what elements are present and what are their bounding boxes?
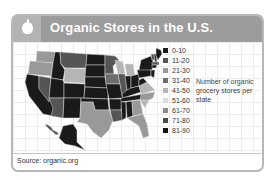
legend-swatch xyxy=(163,68,168,73)
card-header: Organic Stores in the U.S. xyxy=(13,16,262,42)
legend-label: 21-30 xyxy=(172,67,190,74)
state-me xyxy=(156,48,162,60)
state-ct xyxy=(152,65,157,68)
us-map xyxy=(13,42,163,152)
card-footer: Source: organic.org xyxy=(13,153,262,171)
state-hi xyxy=(45,124,59,135)
legend-swatch xyxy=(163,48,168,53)
state-mi xyxy=(125,64,135,76)
state-ne xyxy=(85,77,107,88)
state-oh xyxy=(131,74,139,88)
legend-swatch xyxy=(163,98,168,103)
icon-box xyxy=(13,16,41,42)
legend-item: 11-20 xyxy=(163,55,190,65)
state-wy xyxy=(64,68,86,83)
legend-item: 71-80 xyxy=(163,115,190,125)
legend-label: 0-10 xyxy=(172,47,186,54)
state-ma xyxy=(152,62,159,65)
legend-swatch xyxy=(163,108,168,113)
chart-title: Organic Stores in the U.S. xyxy=(50,20,213,35)
legend-swatch xyxy=(163,118,168,123)
legend: 0-1011-2021-3031-4041-5051-6061-7071-808… xyxy=(163,45,190,135)
state-co xyxy=(64,83,85,98)
legend-swatch xyxy=(163,128,168,133)
state-wa xyxy=(36,51,55,63)
state-ms xyxy=(121,102,126,120)
state-ut xyxy=(49,78,64,98)
state-ak xyxy=(59,124,85,150)
legend-item: 81-90 xyxy=(163,125,190,135)
legend-item: 61-70 xyxy=(163,105,190,115)
state-nj xyxy=(151,70,155,78)
legend-item: 31-40 xyxy=(163,75,190,85)
legend-swatch xyxy=(163,88,168,93)
source-text: Source: organic.org xyxy=(17,157,78,164)
state-sd xyxy=(85,65,105,77)
state-nd xyxy=(86,54,105,65)
state-ia xyxy=(105,74,120,84)
legend-item: 0-10 xyxy=(163,45,190,55)
legend-label: 81-90 xyxy=(172,127,190,134)
state-nm xyxy=(63,98,81,118)
infographic-card: Organic Stores in the U.S. 0-1011-2021-3… xyxy=(11,14,264,172)
state-ks xyxy=(84,87,108,99)
legend-item: 41-50 xyxy=(163,85,190,95)
legend-label: 31-40 xyxy=(172,77,190,84)
legend-item: 21-30 xyxy=(163,65,190,75)
legend-label: 41-50 xyxy=(172,87,190,94)
legend-item: 51-60 xyxy=(163,95,190,105)
state-ar xyxy=(109,99,122,110)
plot-area: 0-1011-2021-3031-4041-5051-6061-7071-808… xyxy=(13,42,262,152)
legend-label: 11-20 xyxy=(172,57,189,64)
legend-label: 61-70 xyxy=(172,107,190,114)
state-wi xyxy=(115,60,125,74)
legend-swatch xyxy=(163,78,168,83)
state-fl xyxy=(127,114,149,138)
state-mt xyxy=(60,52,87,68)
apple-icon xyxy=(22,22,33,34)
legend-label: 71-80 xyxy=(172,117,190,124)
legend-label: 51-60 xyxy=(172,97,190,104)
state-or xyxy=(28,61,53,76)
legend-swatch xyxy=(163,58,168,63)
legend-title: Number of organic grocery stores per sta… xyxy=(196,77,256,104)
